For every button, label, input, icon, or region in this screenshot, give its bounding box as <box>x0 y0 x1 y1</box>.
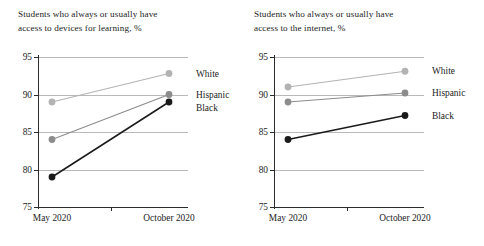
data-point-white-1 <box>402 68 409 75</box>
chart-title-internet: Students who always or usually have acce… <box>254 8 459 35</box>
series-line-black <box>288 116 405 140</box>
x-tick-mid <box>111 207 112 211</box>
data-point-hispanic-1 <box>402 90 409 97</box>
y-tick-label-75: 75 <box>259 202 268 212</box>
chart-title-line-1: Students who always or usually have <box>254 9 394 19</box>
y-tick-label-75: 75 <box>23 202 32 212</box>
y-tick-label-90: 90 <box>259 90 268 100</box>
series-label-white: White <box>196 69 219 79</box>
data-point-hispanic-0 <box>49 136 56 143</box>
plot-area-devices: 9590858075May 2020October 2020WhiteHispa… <box>38 57 188 207</box>
x-axis-line <box>38 207 188 208</box>
data-point-hispanic-1 <box>166 91 173 98</box>
data-point-black-0 <box>49 174 56 181</box>
data-point-white-1 <box>166 70 173 77</box>
series-line-white <box>288 71 405 87</box>
series-line-black <box>52 102 169 177</box>
x-tick-mid <box>347 207 348 211</box>
figure-root: Students who always or usually have acce… <box>0 0 484 246</box>
chart-panel-internet: Students who always or usually have acce… <box>242 0 484 246</box>
x-tick-label-0: May 2020 <box>33 213 71 223</box>
data-point-hispanic-0 <box>285 99 292 106</box>
y-tick-label-85: 85 <box>259 127 268 137</box>
chart-title-devices: Students who always or usually have acce… <box>18 8 223 35</box>
series-line-hispanic <box>288 93 405 102</box>
chart-panel-devices: Students who always or usually have acce… <box>0 0 242 246</box>
x-tick-label-0: May 2020 <box>269 213 307 223</box>
y-tick-label-80: 80 <box>23 165 32 175</box>
x-tick-label-1: October 2020 <box>379 213 430 223</box>
chart-title-line-2: access to devices for learning, % <box>18 23 142 33</box>
data-point-black-1 <box>166 99 173 106</box>
y-tick-label-95: 95 <box>259 52 268 62</box>
x-tick-label-1: October 2020 <box>143 213 194 223</box>
series-label-black: Black <box>196 103 218 113</box>
data-point-black-0 <box>285 136 292 143</box>
series-label-hispanic: Hispanic <box>432 88 465 98</box>
series-layer <box>274 57 424 207</box>
chart-title-line-2: access to the internet, % <box>254 23 346 33</box>
y-tick-label-85: 85 <box>23 127 32 137</box>
plot-area-internet: 9590858075May 2020October 2020WhiteHispa… <box>274 57 424 207</box>
y-tick-label-80: 80 <box>259 165 268 175</box>
data-point-white-0 <box>285 84 292 91</box>
series-line-hispanic <box>52 95 169 140</box>
y-tick-label-90: 90 <box>23 90 32 100</box>
series-label-black: Black <box>432 111 454 121</box>
chart-title-line-1: Students who always or usually have <box>18 9 158 19</box>
series-layer <box>38 57 188 207</box>
series-label-white: White <box>432 66 455 76</box>
y-tick-label-95: 95 <box>23 52 32 62</box>
data-point-white-0 <box>49 99 56 106</box>
series-line-white <box>52 74 169 103</box>
series-label-hispanic: Hispanic <box>196 90 229 100</box>
data-point-black-1 <box>402 112 409 119</box>
x-axis-line <box>274 207 424 208</box>
